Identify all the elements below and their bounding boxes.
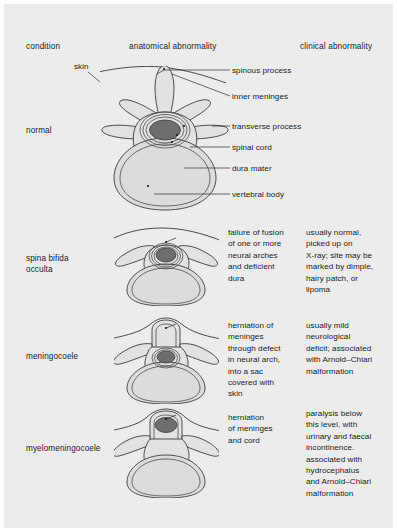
- column-header-anatomical: anatomical abnormality: [129, 42, 217, 51]
- callout-label-spinous-process: spinous process: [232, 66, 291, 75]
- figure-panel: condition anatomical abnormality clinica…: [4, 4, 393, 528]
- callout-label-vertebral-body: vertebral body: [232, 190, 284, 199]
- clinical-text-spina-bifida-occulta: usually normal, picked up on X-ray; site…: [306, 227, 396, 295]
- illustration-meningocoele: [114, 316, 219, 404]
- callout-label-spinal-cord: spinal cord: [232, 143, 272, 152]
- callout-label-skin: skin: [74, 62, 89, 71]
- column-header-condition: condition: [26, 42, 60, 51]
- illustration-myelomeningocoele: [114, 406, 219, 498]
- condition-label-spina-bifida-occulta: spina bifida occulta: [26, 254, 69, 275]
- illustration-spina-bifida-occulta: [114, 226, 219, 306]
- clinical-text-meningocoele: usually mild neurological deficit; assoc…: [306, 320, 396, 377]
- callout-label-dura-mater: dura mater: [232, 164, 272, 173]
- condition-label-normal: normal: [26, 126, 52, 137]
- anatomical-text-meningocoele: herniation of meninges through defect in…: [228, 320, 300, 400]
- illustration-normal-vertebra: [100, 66, 230, 211]
- callout-label-transverse-process: transverse process: [232, 122, 301, 131]
- condition-label-myelomeningocoele: myelomeningocoele: [26, 444, 101, 455]
- callout-label-inner-meninges: inner meninges: [232, 92, 288, 101]
- clinical-text-myelomeningocoele: paralysis below this level, with urinary…: [306, 408, 396, 499]
- anatomical-text-myelomeningocoele: herniation of meninges and cord: [228, 412, 300, 446]
- condition-label-meningocoele: meningocoele: [26, 352, 78, 363]
- anatomical-text-spina-bifida-occulta: failure of fusion of one or more neural …: [228, 227, 300, 284]
- column-header-clinical: clinical abnormality: [300, 42, 372, 51]
